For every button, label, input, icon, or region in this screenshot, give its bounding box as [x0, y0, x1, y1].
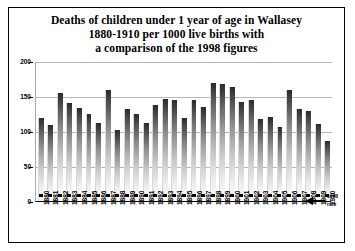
bar [95, 123, 101, 201]
x-axis-labels: 1880188118821883188418851886188718881889… [35, 204, 331, 244]
chart-plot-wrapper: 050100150200 188018811882188318841885188… [9, 8, 346, 244]
x-axis-tick-label: 1888 [119, 191, 126, 205]
x-axis-tick-label: 1889 [129, 191, 136, 205]
bar [286, 90, 292, 201]
x-axis-tick-label: 1891 [148, 191, 155, 205]
bar [210, 83, 216, 201]
x-axis-tick-label: 1890 [138, 191, 145, 205]
x-axis-tick-label: 1882 [62, 191, 69, 205]
x-axis-tick-label: 1881 [52, 191, 59, 205]
bar [38, 118, 44, 201]
bar [191, 100, 197, 202]
x-axis-tick-label: 1894 [176, 191, 183, 205]
y-axis-tick-mark [29, 132, 33, 133]
x-axis-tick-label: 1892 [157, 191, 164, 205]
bar [257, 119, 263, 201]
gridline [36, 62, 332, 63]
bar [171, 100, 177, 202]
x-axis-tick-label: 1904 [272, 191, 279, 205]
annotation-1998-label: 1998 [327, 193, 338, 199]
x-axis-tick-label: 1896 [196, 191, 203, 205]
bar [57, 93, 63, 201]
x-axis-tick-label: 1905 [281, 191, 288, 205]
bar [133, 114, 139, 201]
x-axis-tick-label: 1906 [291, 191, 298, 205]
bar [200, 107, 206, 201]
y-axis-tick-mark [29, 167, 33, 168]
plot-area [35, 62, 331, 202]
x-axis-tick-label: 1901 [243, 191, 250, 205]
bar [296, 109, 302, 201]
x-axis-tick-label: 1884 [81, 191, 88, 205]
x-axis-tick-label: 1899 [224, 191, 231, 205]
bar [181, 118, 187, 201]
y-axis-tick-mark [29, 62, 33, 63]
bar [124, 109, 130, 201]
bar [315, 124, 321, 201]
annotation-arrow-icon [305, 196, 327, 206]
bar [105, 90, 111, 201]
x-axis-tick-label: 1903 [262, 191, 269, 205]
x-axis-tick-label: 1900 [234, 191, 241, 205]
x-axis-tick-label: 1883 [71, 191, 78, 205]
bar [229, 87, 235, 201]
x-axis-tick-label: 1893 [167, 191, 174, 205]
bar [66, 103, 72, 201]
annotation-rate-label: rate [327, 201, 336, 207]
x-axis-tick-label: 1887 [110, 191, 117, 205]
bar [152, 105, 158, 201]
chart-frame: Deaths of children under 1 year of age i… [8, 7, 345, 243]
x-axis-tick-label: 1880 [43, 191, 50, 205]
x-axis-tick-label: 1885 [91, 191, 98, 205]
y-axis-labels: 050100150200 [9, 62, 33, 202]
x-axis-tick-label: 1902 [253, 191, 260, 205]
bar [248, 100, 254, 201]
bar [219, 84, 225, 201]
bar [267, 117, 273, 201]
x-axis-tick-label: 1886 [100, 191, 107, 205]
bar [238, 102, 244, 201]
y-axis-tick-mark [29, 202, 33, 203]
y-axis-tick-mark [29, 97, 33, 98]
bar [143, 123, 149, 201]
bar [76, 108, 82, 201]
bar [86, 114, 92, 202]
x-axis-tick-label: 1895 [186, 191, 193, 205]
bar [162, 99, 168, 201]
x-axis-tick-label: 1897 [205, 191, 212, 205]
bar [305, 111, 311, 201]
x-axis-tick-label: 1898 [215, 191, 222, 205]
